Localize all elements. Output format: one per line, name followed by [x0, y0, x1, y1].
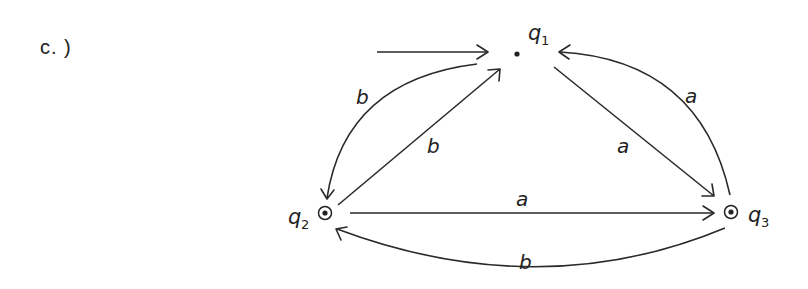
edge-q3-q2-label: b — [519, 250, 532, 274]
state-q3: q 3 — [725, 203, 770, 230]
edge-q3-to-q1: a — [559, 45, 730, 195]
edge-q2-to-q3: a — [350, 187, 714, 220]
state-q2-name: q — [288, 205, 301, 229]
edge-q1-q2-label: b — [356, 85, 369, 109]
state-q1-subscript: 1 — [541, 33, 549, 48]
initial-arrow — [377, 45, 488, 59]
state-q1-dot — [514, 51, 519, 56]
edge-q2-q1-label: b — [427, 134, 440, 158]
state-q3-subscript: 3 — [761, 215, 769, 230]
edge-q3-to-q2: b — [336, 227, 725, 274]
state-q3-dot — [728, 209, 733, 214]
state-q1-name: q — [528, 21, 541, 45]
state-q2-subscript: 2 — [301, 217, 309, 232]
state-q1: q 1 — [514, 21, 549, 57]
state-q3-name: q — [748, 203, 761, 227]
edge-q1-to-q2: b — [321, 64, 477, 199]
edge-q1-q3-label: a — [617, 134, 629, 158]
edge-q3-q1-label: a — [685, 84, 697, 108]
automaton-diagram: q 1 q 2 q 3 b b a a — [0, 0, 808, 289]
edge-q2-q3-label: a — [516, 187, 528, 211]
state-q2: q 2 — [288, 205, 332, 232]
state-q2-dot — [322, 210, 327, 215]
